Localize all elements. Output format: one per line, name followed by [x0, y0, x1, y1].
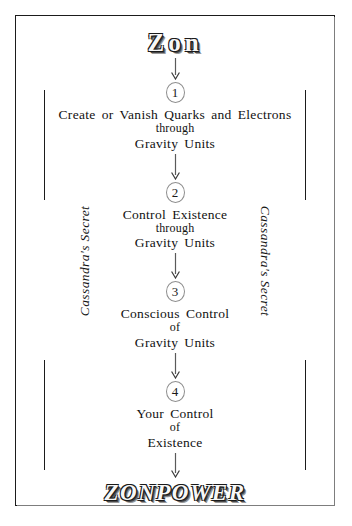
- arrow-down-icon: [170, 253, 181, 279]
- step-3-tail: Gravity Units: [121, 335, 229, 350]
- arrow-down-icon: [170, 154, 181, 180]
- step-1-link: through: [59, 122, 292, 135]
- step-3-main: Conscious Control: [121, 306, 229, 321]
- step-block-4: Your Control of Existence: [136, 406, 213, 450]
- step-4-link: of: [136, 421, 213, 434]
- diagram-frame: Cassandra's Secret Cassandra's Secret Zo…: [15, 15, 335, 506]
- rule-right-bottom: [305, 360, 306, 470]
- step-number-3: 3: [166, 281, 185, 302]
- rule-right-top: [305, 90, 306, 200]
- rule-left-bottom: [44, 360, 45, 470]
- step-4-tail: Existence: [136, 435, 213, 450]
- step-number-4: 4: [166, 381, 185, 402]
- arrow-down-icon: [170, 58, 181, 80]
- page-title: Zon: [147, 30, 202, 55]
- step-number-2: 2: [166, 182, 185, 203]
- step-block-2: Control Existence through Gravity Units: [123, 207, 228, 251]
- step-1-tail: Gravity Units: [59, 136, 292, 151]
- step-1-main: Create or Vanish Quarks and Electrons: [59, 107, 292, 122]
- step-block-1: Create or Vanish Quarks and Electrons th…: [59, 107, 292, 151]
- rule-left-top: [44, 90, 45, 200]
- step-4-main: Your Control: [136, 406, 213, 421]
- arrow-down-icon: [170, 453, 181, 478]
- step-3-link: of: [121, 321, 229, 334]
- footer-title: ZONPOWER: [104, 481, 245, 504]
- flow-column: Zon 1 Create or Vanish Quarks and Electr…: [52, 16, 298, 505]
- step-2-tail: Gravity Units: [123, 235, 228, 250]
- arrow-down-icon: [170, 353, 181, 379]
- step-number-1: 1: [166, 82, 185, 103]
- step-2-link: through: [123, 222, 228, 235]
- step-block-3: Conscious Control of Gravity Units: [121, 306, 229, 350]
- step-2-main: Control Existence: [123, 207, 228, 222]
